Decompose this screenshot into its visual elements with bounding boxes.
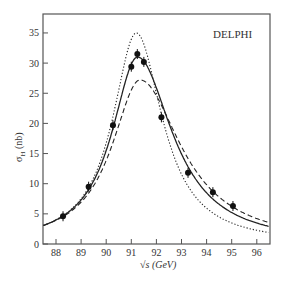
x-tick-label: 96	[252, 247, 262, 258]
data-point	[210, 189, 216, 195]
x-tick-label: 92	[151, 247, 161, 258]
y-tick-label: 30	[29, 58, 39, 69]
solid-curve	[44, 57, 269, 226]
x-tick-label: 88	[51, 247, 61, 258]
curves	[44, 33, 269, 233]
x-tick-label: 90	[101, 247, 111, 258]
experiment-label: DELPHI	[213, 28, 252, 40]
data-point	[60, 213, 66, 219]
y-axis-ticks: 05101520253035	[29, 27, 48, 249]
x-tick-label: 89	[76, 247, 86, 258]
data-point	[141, 59, 147, 65]
data-point	[158, 114, 164, 120]
dotted-curve	[44, 33, 269, 233]
plot-frame	[43, 14, 270, 244]
y-tick-label: 10	[29, 178, 39, 189]
data-point	[185, 170, 191, 176]
x-tick-label: 93	[177, 247, 187, 258]
x-tick-label: 94	[202, 247, 212, 258]
y-tick-label: 5	[34, 208, 39, 219]
y-tick-label: 15	[29, 148, 39, 159]
y-tick-label: 20	[29, 118, 39, 129]
data-point	[134, 51, 140, 57]
x-axis-label: √s (GeV)	[140, 259, 177, 271]
y-tick-label: 0	[34, 239, 39, 250]
x-axis-ticks: 888990919293949596	[51, 239, 262, 258]
data-point	[230, 203, 236, 209]
x-tick-label: 91	[126, 247, 136, 258]
data-point	[110, 122, 116, 128]
y-tick-label: 25	[29, 88, 39, 99]
y-tick-label: 35	[29, 27, 39, 38]
y-axis-label: σH (nb)	[13, 132, 27, 162]
x-tick-label: 95	[227, 247, 237, 258]
data-point	[128, 64, 134, 70]
data-point	[86, 184, 92, 190]
cross-section-chart: 05101520253035 888990919293949596 DELPHI…	[0, 0, 283, 284]
